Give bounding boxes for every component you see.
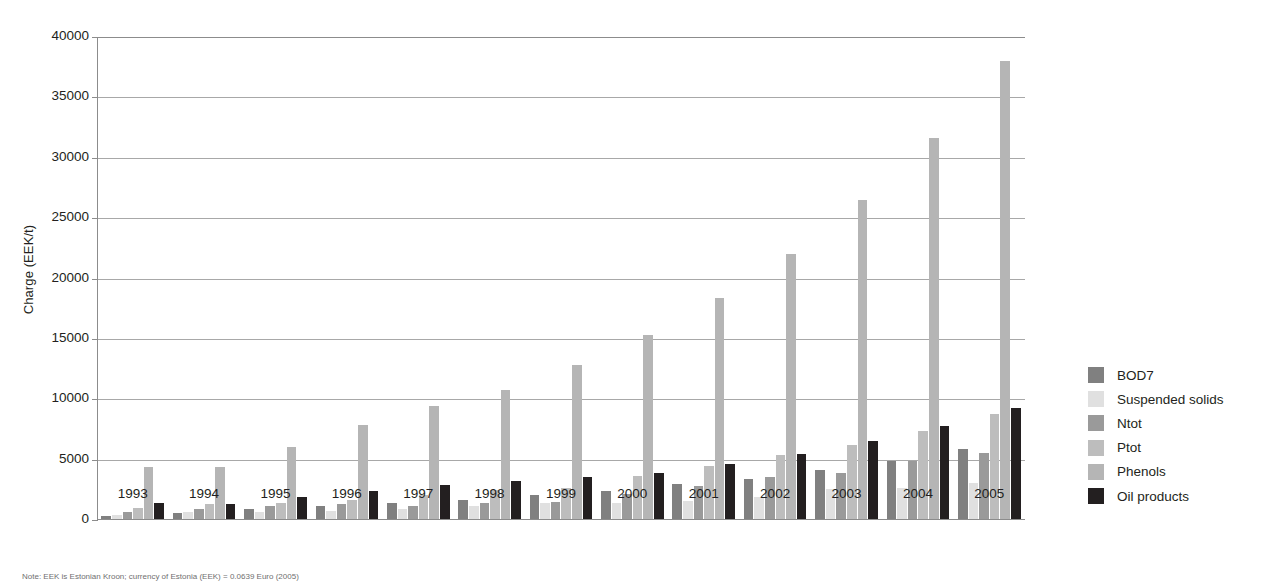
legend-item: Ptot	[1088, 436, 1264, 460]
bar-suspended-solids	[183, 512, 193, 519]
y-axis-tick-label: 5000	[0, 451, 89, 466]
bar-suspended-solids	[612, 503, 622, 519]
bar-bod7	[387, 503, 397, 519]
legend-swatch-icon	[1088, 415, 1104, 431]
bar-series-container	[98, 37, 1025, 519]
bar-group	[241, 37, 312, 519]
bar-phenols	[929, 138, 939, 519]
bar-ntot	[337, 504, 347, 519]
bar-group	[883, 37, 954, 519]
y-axis-tick-label: 20000	[0, 270, 89, 285]
y-axis-tick-label: 35000	[0, 88, 89, 103]
x-axis-tick-label: 2001	[668, 486, 739, 501]
bar-oil-products	[868, 441, 878, 519]
bar-ptot	[990, 414, 1000, 519]
legend-label: Ptot	[1117, 440, 1141, 455]
bar-phenols	[358, 425, 368, 519]
bar-group	[669, 37, 740, 519]
bar-oil-products	[226, 504, 236, 519]
bar-suspended-solids	[398, 509, 408, 519]
legend-swatch-icon	[1088, 488, 1104, 504]
x-axis-tick-label: 1993	[97, 486, 168, 501]
bar-phenols	[287, 447, 297, 519]
x-axis-tick-label: 1998	[454, 486, 525, 501]
bar-ntot	[194, 509, 204, 519]
bar-group	[812, 37, 883, 519]
bar-ptot	[276, 503, 286, 519]
bar-suspended-solids	[255, 512, 265, 519]
bar-ptot	[347, 500, 357, 519]
bar-bod7	[173, 513, 183, 519]
y-axis-tick-label: 10000	[0, 390, 89, 405]
legend-label: Suspended solids	[1117, 392, 1224, 407]
bar-group	[598, 37, 669, 519]
y-axis-tick-label: 40000	[0, 28, 89, 43]
bar-group	[455, 37, 526, 519]
bar-bod7	[244, 509, 254, 519]
bar-group	[98, 37, 169, 519]
bar-oil-products	[1011, 408, 1021, 519]
y-axis-tick-label: 25000	[0, 209, 89, 224]
bar-group	[312, 37, 383, 519]
legend-swatch-icon	[1088, 440, 1104, 456]
bar-bod7	[101, 516, 111, 519]
chart-figure: Charge (EEK/t) 0500010000150002000025000…	[0, 0, 1264, 583]
bar-bod7	[316, 506, 326, 519]
bar-suspended-solids	[326, 511, 336, 519]
bar-group	[526, 37, 597, 519]
x-axis-tick-label: 2005	[954, 486, 1025, 501]
x-axis-tick-label: 1997	[383, 486, 454, 501]
bar-ntot	[265, 506, 275, 519]
bar-group	[384, 37, 455, 519]
x-axis-tick-label: 2002	[739, 486, 810, 501]
bar-oil-products	[154, 503, 164, 519]
bar-group	[169, 37, 240, 519]
x-axis-tick-label: 1994	[168, 486, 239, 501]
bar-ptot	[205, 504, 215, 519]
legend-label: Phenols	[1117, 464, 1166, 479]
bar-phenols	[858, 200, 868, 519]
plot-area	[97, 37, 1025, 520]
legend-label: Oil products	[1117, 489, 1189, 504]
y-axis-tick-label: 15000	[0, 330, 89, 345]
bar-bod7	[958, 449, 968, 519]
bar-suspended-solids	[112, 515, 122, 519]
bar-ntot	[480, 503, 490, 519]
bar-phenols	[786, 254, 796, 519]
x-axis-tick-label: 1999	[525, 486, 596, 501]
bar-suspended-solids	[683, 501, 693, 519]
bar-suspended-solids	[540, 503, 550, 519]
legend-item: Ntot	[1088, 411, 1264, 435]
x-axis-tick-label: 2000	[597, 486, 668, 501]
chart-legend: BOD7Suspended solidsNtotPtotPhenolsOil p…	[1088, 363, 1264, 508]
legend-label: BOD7	[1117, 368, 1154, 383]
x-axis-tick-label: 1995	[240, 486, 311, 501]
bar-phenols	[429, 406, 439, 519]
bar-ptot	[918, 431, 928, 519]
figure-note: Note: EEK is Estonian Kroon; currency of…	[22, 572, 299, 583]
bar-phenols	[1000, 61, 1010, 519]
x-axis-tick-label: 2003	[811, 486, 882, 501]
legend-swatch-icon	[1088, 367, 1104, 383]
bar-ntot	[123, 512, 133, 519]
legend-item: BOD7	[1088, 363, 1264, 387]
bar-group	[955, 37, 1026, 519]
bar-ntot	[408, 506, 418, 519]
legend-item: Suspended solids	[1088, 387, 1264, 411]
bar-ntot	[551, 502, 561, 519]
bar-oil-products	[940, 426, 950, 519]
legend-swatch-icon	[1088, 464, 1104, 480]
legend-swatch-icon	[1088, 391, 1104, 407]
x-axis-tick-label: 1996	[311, 486, 382, 501]
legend-item: Oil products	[1088, 484, 1264, 508]
bar-group	[740, 37, 811, 519]
bar-bod7	[458, 500, 468, 519]
bar-suspended-solids	[469, 506, 479, 519]
y-axis-tick-label: 30000	[0, 149, 89, 164]
x-axis-tick-label: 2004	[882, 486, 953, 501]
legend-item: Phenols	[1088, 460, 1264, 484]
y-axis-tick-mark	[92, 520, 98, 521]
legend-label: Ntot	[1117, 416, 1142, 431]
y-axis-tick-label: 0	[0, 511, 89, 526]
bar-ptot	[847, 445, 857, 519]
